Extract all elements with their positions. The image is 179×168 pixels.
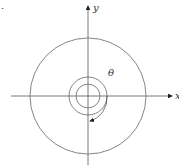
polar-diagram: . y x θ bbox=[0, 0, 179, 168]
problem-marker: . bbox=[1, 0, 4, 11]
y-axis-label: y bbox=[92, 2, 99, 13]
angle-arrow bbox=[90, 96, 107, 121]
theta-label: θ bbox=[108, 67, 114, 78]
x-axis-label: x bbox=[175, 90, 179, 101]
